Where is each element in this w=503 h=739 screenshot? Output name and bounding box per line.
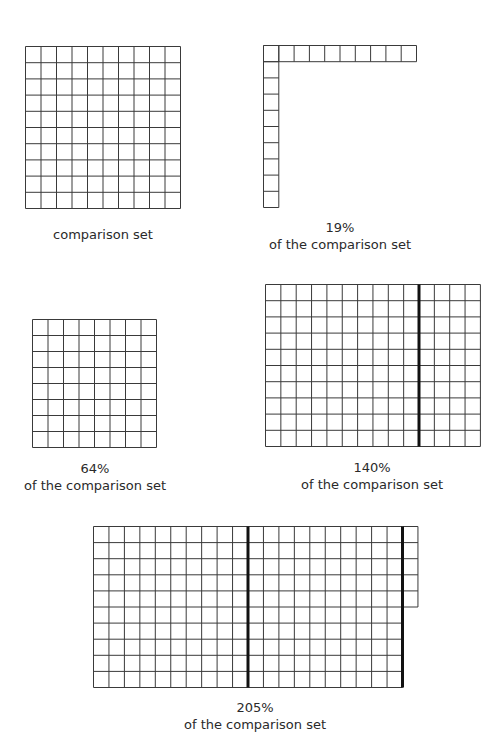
one-forty-percent-grid [265,284,483,448]
caption-percent: 19% [240,219,440,236]
caption-subtext: of the comparison set [272,476,472,493]
caption-subtext: of the comparison set [240,236,440,253]
caption-percent: 205% [155,699,355,716]
nineteen-percent-caption: 19% of the comparison set [240,219,440,253]
two-oh-five-percent-grid [93,526,420,690]
caption-subtext: of the comparison set [155,716,355,733]
sixty-four-percent-caption: 64% of the comparison set [0,460,190,494]
one-forty-percent-caption: 140% of the comparison set [272,459,472,493]
comparison-set-caption: comparison set [25,226,181,243]
caption-subtext: of the comparison set [0,477,190,494]
comparison-set-grid [25,46,181,209]
caption-line-1: comparison set [25,226,181,243]
sixty-four-percent-grid [32,319,158,449]
caption-percent: 64% [0,460,190,477]
two-oh-five-percent-caption: 205% of the comparison set [155,699,355,733]
nineteen-percent-grid [263,45,419,208]
caption-percent: 140% [272,459,472,476]
